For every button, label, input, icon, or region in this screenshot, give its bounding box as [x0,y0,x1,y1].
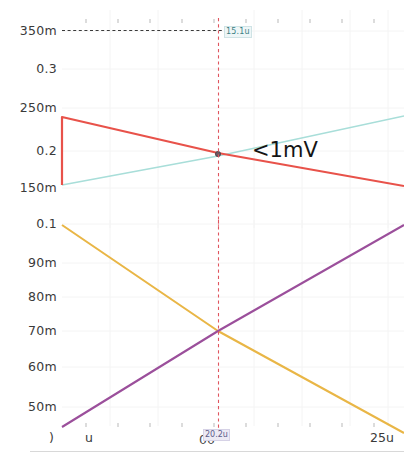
y-tick-label-250m: 250m [0,102,57,115]
x-tick-label-left: ) [49,432,54,445]
y-tick-label-90m: 90m [0,257,57,270]
orange-trace [62,225,404,433]
waveform-viewer[interactable]: 350m 0.3 250m 0.2 150m 15.1u <1mV [0,0,404,457]
y-tick-label-80m: 80m [0,291,57,304]
plot-pane-lower[interactable]: 0.1 90m 80m 70m 60m 50m [0,220,404,457]
cursor-x-readout-chip[interactable]: 20.2u [203,429,230,441]
y-tick-label-50m: 50m [0,401,57,414]
x-tick-label-u: u [85,432,93,445]
y-tick-label-0.3: 0.3 [0,63,57,76]
cursor-x-value-chip[interactable]: 15.1u [224,26,252,38]
purple-trace [62,225,404,427]
x-tick-label-right: 25u [370,432,394,445]
y-tick-label-150m: 150m [0,182,57,195]
y-tick-label-60m: 60m [0,361,57,374]
grid-upper [62,10,404,228]
y-tick-label-0.2: 0.2 [0,145,57,158]
bottom-tick-marks [86,423,374,427]
plot-pane-upper[interactable]: 350m 0.3 250m 0.2 150m 15.1u <1mV [0,0,404,228]
y-tick-label-70m: 70m [0,325,57,338]
lower-plot-canvas[interactable] [0,220,404,457]
y-tick-label-350m: 350m [0,25,57,38]
y-tick-label-0.1: 0.1 [0,218,57,231]
delta-annotation: <1mV [252,140,318,161]
top-tick-marks [86,19,374,23]
upper-plot-canvas[interactable] [0,0,404,228]
